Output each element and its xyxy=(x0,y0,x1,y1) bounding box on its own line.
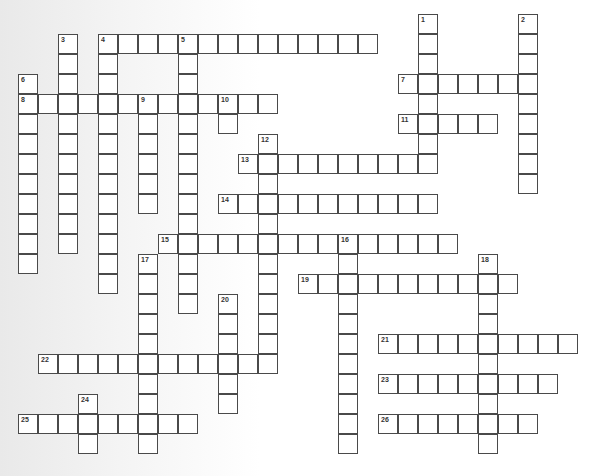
crossword-cell[interactable] xyxy=(398,154,418,174)
crossword-cell[interactable] xyxy=(58,354,78,374)
crossword-cell[interactable] xyxy=(338,254,358,274)
crossword-cell[interactable]: 8 xyxy=(18,94,38,114)
crossword-cell[interactable] xyxy=(138,154,158,174)
crossword-cell[interactable] xyxy=(258,154,278,174)
crossword-cell[interactable] xyxy=(498,74,518,94)
crossword-cell[interactable] xyxy=(518,174,538,194)
crossword-cell[interactable] xyxy=(198,94,218,114)
crossword-cell[interactable] xyxy=(98,154,118,174)
crossword-cell[interactable] xyxy=(258,34,278,54)
crossword-cell[interactable] xyxy=(138,274,158,294)
crossword-cell[interactable] xyxy=(258,354,278,374)
crossword-cell[interactable] xyxy=(38,414,58,434)
crossword-cell[interactable] xyxy=(398,414,418,434)
crossword-cell[interactable] xyxy=(178,214,198,234)
crossword-cell[interactable] xyxy=(138,134,158,154)
crossword-cell[interactable] xyxy=(318,34,338,54)
crossword-cell[interactable] xyxy=(438,234,458,254)
crossword-cell[interactable] xyxy=(238,94,258,114)
crossword-cell[interactable] xyxy=(318,274,338,294)
crossword-cell[interactable] xyxy=(538,374,558,394)
crossword-cell[interactable] xyxy=(378,154,398,174)
crossword-cell[interactable] xyxy=(258,214,278,234)
crossword-cell[interactable] xyxy=(418,134,438,154)
crossword-cell[interactable] xyxy=(478,354,498,374)
crossword-cell[interactable] xyxy=(98,194,118,214)
crossword-cell[interactable] xyxy=(338,294,358,314)
crossword-cell[interactable] xyxy=(258,274,278,294)
crossword-cell[interactable]: 16 xyxy=(338,234,358,254)
crossword-cell[interactable]: 13 xyxy=(238,154,258,174)
crossword-cell[interactable] xyxy=(78,354,98,374)
crossword-cell[interactable] xyxy=(138,374,158,394)
crossword-cell[interactable]: 22 xyxy=(38,354,58,374)
crossword-cell[interactable] xyxy=(338,374,358,394)
crossword-cell[interactable] xyxy=(278,154,298,174)
crossword-cell[interactable] xyxy=(478,434,498,454)
crossword-cell[interactable] xyxy=(98,74,118,94)
crossword-cell[interactable] xyxy=(258,94,278,114)
crossword-cell[interactable] xyxy=(58,94,78,114)
crossword-cell[interactable] xyxy=(158,414,178,434)
crossword-cell[interactable] xyxy=(478,374,498,394)
crossword-cell[interactable]: 1 xyxy=(418,14,438,34)
crossword-cell[interactable]: 15 xyxy=(158,234,178,254)
crossword-cell[interactable] xyxy=(318,234,338,254)
crossword-cell[interactable] xyxy=(498,274,518,294)
crossword-cell[interactable]: 25 xyxy=(18,414,38,434)
crossword-cell[interactable] xyxy=(438,334,458,354)
crossword-cell[interactable] xyxy=(178,414,198,434)
crossword-cell[interactable] xyxy=(518,34,538,54)
crossword-cell[interactable] xyxy=(398,234,418,254)
crossword-cell[interactable] xyxy=(98,274,118,294)
crossword-cell[interactable] xyxy=(238,234,258,254)
crossword-cell[interactable] xyxy=(118,94,138,114)
crossword-cell[interactable] xyxy=(338,394,358,414)
crossword-cell[interactable] xyxy=(178,134,198,154)
crossword-cell[interactable] xyxy=(58,54,78,74)
crossword-cell[interactable] xyxy=(258,174,278,194)
crossword-cell[interactable] xyxy=(238,34,258,54)
crossword-cell[interactable] xyxy=(18,254,38,274)
crossword-cell[interactable] xyxy=(138,174,158,194)
crossword-cell[interactable]: 12 xyxy=(258,134,278,154)
crossword-cell[interactable] xyxy=(298,154,318,174)
crossword-cell[interactable] xyxy=(378,274,398,294)
crossword-cell[interactable]: 4 xyxy=(98,34,118,54)
crossword-cell[interactable] xyxy=(138,434,158,454)
crossword-cell[interactable] xyxy=(418,194,438,214)
crossword-cell[interactable] xyxy=(438,114,458,134)
crossword-cell[interactable]: 11 xyxy=(398,114,418,134)
crossword-cell[interactable] xyxy=(518,374,538,394)
crossword-cell[interactable]: 6 xyxy=(18,74,38,94)
crossword-cell[interactable] xyxy=(178,114,198,134)
crossword-cell[interactable] xyxy=(18,194,38,214)
crossword-cell[interactable] xyxy=(138,294,158,314)
crossword-cell[interactable] xyxy=(498,334,518,354)
crossword-cell[interactable] xyxy=(458,414,478,434)
crossword-cell[interactable] xyxy=(518,54,538,74)
crossword-cell[interactable] xyxy=(258,194,278,214)
crossword-cell[interactable] xyxy=(58,214,78,234)
crossword-cell[interactable] xyxy=(58,194,78,214)
crossword-cell[interactable] xyxy=(438,414,458,434)
crossword-cell[interactable] xyxy=(218,334,238,354)
crossword-cell[interactable] xyxy=(518,94,538,114)
crossword-cell[interactable] xyxy=(378,194,398,214)
crossword-cell[interactable] xyxy=(258,294,278,314)
crossword-cell[interactable] xyxy=(138,314,158,334)
crossword-cell[interactable] xyxy=(118,354,138,374)
crossword-cell[interactable] xyxy=(138,114,158,134)
crossword-cell[interactable] xyxy=(298,234,318,254)
crossword-cell[interactable] xyxy=(58,414,78,434)
crossword-cell[interactable] xyxy=(418,374,438,394)
crossword-cell[interactable] xyxy=(58,134,78,154)
crossword-cell[interactable] xyxy=(158,94,178,114)
crossword-cell[interactable] xyxy=(118,414,138,434)
crossword-cell[interactable]: 21 xyxy=(378,334,398,354)
crossword-cell[interactable] xyxy=(478,294,498,314)
crossword-cell[interactable] xyxy=(78,94,98,114)
crossword-cell[interactable] xyxy=(218,394,238,414)
crossword-cell[interactable] xyxy=(178,354,198,374)
crossword-cell[interactable] xyxy=(58,114,78,134)
